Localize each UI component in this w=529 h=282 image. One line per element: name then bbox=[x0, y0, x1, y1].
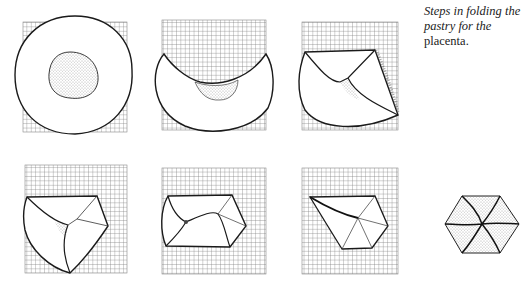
step-1-flat-pastry bbox=[15, 16, 132, 134]
caption-italic-2: pastry for the bbox=[424, 19, 491, 33]
figure-caption: Steps in folding the pastry for the plac… bbox=[424, 4, 529, 49]
caption-italic-1: Steps in folding the bbox=[424, 4, 520, 18]
step-6-fifth-fold bbox=[302, 168, 398, 274]
step-2-first-fold bbox=[155, 20, 273, 131]
step-7-finished-placenta bbox=[445, 196, 519, 253]
step-3-second-fold bbox=[299, 22, 398, 130]
caption-roman: placenta. bbox=[424, 34, 469, 48]
step-4-third-fold bbox=[24, 165, 127, 273]
step-5-fourth-fold bbox=[162, 168, 266, 274]
